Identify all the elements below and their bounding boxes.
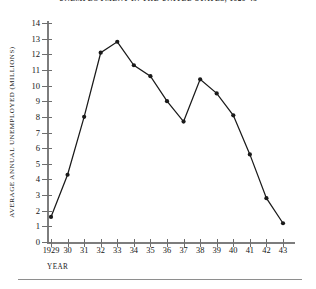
data-point — [148, 74, 152, 78]
y-tick-label: 8 — [36, 113, 40, 122]
data-point — [49, 215, 53, 219]
x-axis-title: YEAR — [47, 263, 68, 271]
series-line — [51, 42, 283, 223]
y-tick-label: 5 — [36, 159, 40, 168]
x-tick-label: 41 — [246, 247, 254, 255]
data-point — [198, 77, 202, 81]
y-tick-label: 11 — [32, 66, 40, 75]
x-tick-label: 43 — [279, 247, 287, 255]
y-tick-label: 2 — [36, 206, 40, 215]
x-tick-label: 38 — [196, 247, 204, 255]
x-tick-label: 33 — [113, 247, 121, 255]
x-tick-label: 36 — [163, 247, 171, 255]
y-tick-label: 3 — [36, 191, 40, 200]
data-series-unemployment — [47, 21, 295, 243]
y-tick-label: 10 — [31, 81, 40, 90]
data-point — [165, 99, 169, 103]
data-point — [65, 173, 69, 177]
x-tick-label: 31 — [80, 247, 88, 255]
data-point — [231, 113, 235, 117]
plot-area: 01234567891011121314 1929303132333435363… — [47, 21, 295, 243]
figure: UNEMPLOYMENT IN THE UNITED STATES, 1929-… — [0, 0, 316, 289]
y-tick-label: 1 — [36, 222, 40, 231]
bottom-rule — [18, 279, 302, 280]
running-head-text: UNEMPLOYMENT IN THE UNITED STATES, 1929-… — [22, 0, 294, 3]
x-tick-label: 37 — [179, 247, 187, 255]
x-tick-label: 40 — [229, 247, 237, 255]
y-tick-label: 13 — [31, 34, 40, 43]
x-tick-label: 30 — [63, 247, 71, 255]
y-tick-label: 7 — [36, 128, 40, 137]
x-tick-label: 32 — [97, 247, 105, 255]
data-point — [82, 115, 86, 119]
y-tick-label: 6 — [36, 144, 40, 153]
y-tick-label: 9 — [36, 97, 40, 106]
data-point — [115, 40, 119, 44]
data-point — [281, 221, 285, 225]
data-point — [181, 119, 185, 123]
x-tick-label: 35 — [146, 247, 154, 255]
data-point — [99, 51, 103, 55]
y-axis-title-text: AVERAGE ANNUAL UNEMPLOYED (MILLIONS) — [8, 21, 16, 243]
y-tick-label: 14 — [31, 19, 40, 28]
y-axis-title: AVERAGE ANNUAL UNEMPLOYED (MILLIONS) — [8, 21, 20, 243]
running-head: UNEMPLOYMENT IN THE UNITED STATES, 1929-… — [22, 0, 294, 9]
data-point — [248, 152, 252, 156]
y-tick-label: 0 — [36, 238, 40, 247]
x-tick-label: 42 — [262, 247, 270, 255]
y-tick-label: 4 — [36, 175, 40, 184]
y-tick-label: 12 — [31, 50, 40, 59]
data-point — [132, 63, 136, 67]
data-point — [215, 91, 219, 95]
x-tick-label: 1929 — [43, 247, 60, 255]
x-tick-label: 34 — [130, 247, 138, 255]
x-tick-label: 39 — [213, 247, 221, 255]
data-point — [264, 196, 268, 200]
